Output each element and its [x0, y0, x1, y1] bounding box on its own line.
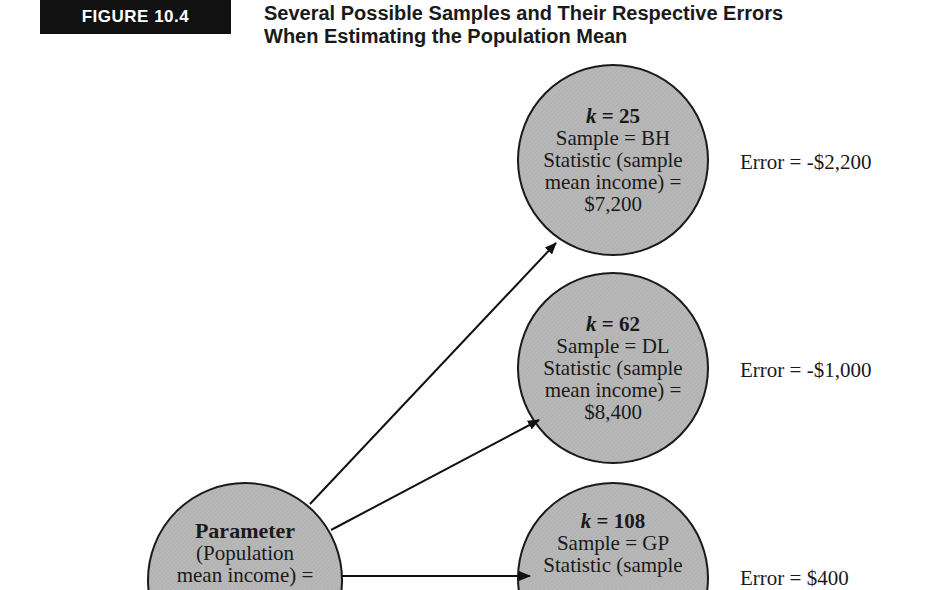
parameter-line-2: mean income) =: [177, 564, 314, 586]
sample-k-label: k = 25: [586, 105, 640, 127]
statistic-label-cont: mean income) =: [545, 379, 682, 401]
sample-node-k108: k = 108 Sample = GP Statistic (sample: [523, 510, 703, 576]
sample-k-label: k = 108: [581, 510, 645, 532]
statistic-label: Statistic (sample: [543, 554, 682, 576]
parameter-line-1: (Population: [196, 542, 294, 564]
statistic-value: $7,200: [584, 193, 642, 215]
sample-name: Sample = BH: [556, 127, 671, 149]
sample-name: Sample = DL: [556, 335, 669, 357]
error-label-k108: Error = $400: [740, 566, 849, 590]
sample-name: Sample = GP: [557, 532, 669, 554]
sample-node-k25: k = 25 Sample = BH Statistic (sample mea…: [523, 98, 703, 222]
sample-node-k62: k = 62 Sample = DL Statistic (sample mea…: [523, 306, 703, 430]
statistic-label: Statistic (sample: [543, 149, 682, 171]
parameter-title: Parameter: [195, 520, 295, 542]
statistic-label-cont: mean income) =: [545, 171, 682, 193]
error-label-k62: Error = -$1,000: [740, 358, 871, 383]
error-label-k25: Error = -$2,200: [740, 150, 871, 175]
sample-k-label: k = 62: [586, 313, 640, 335]
arrow-to-k62: [331, 420, 539, 530]
statistic-label: Statistic (sample: [543, 357, 682, 379]
parameter-node: Parameter (Population mean income) =: [145, 520, 345, 586]
statistic-value: $8,400: [584, 401, 642, 423]
diagram-canvas: [0, 0, 949, 590]
